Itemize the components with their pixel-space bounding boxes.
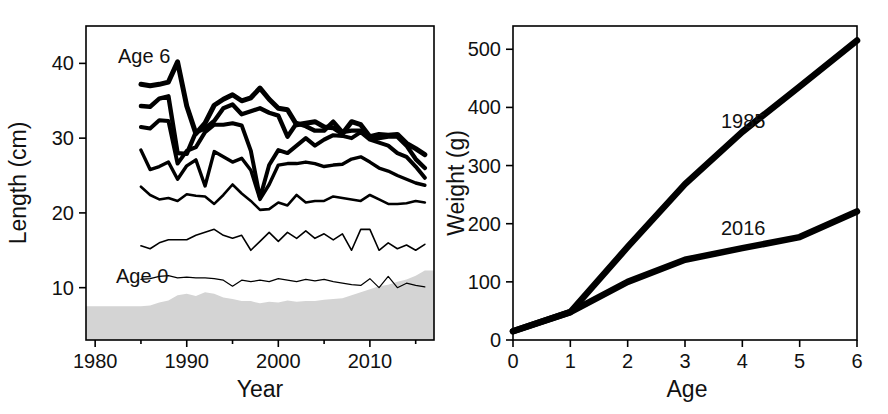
- right-xaxis-title: Age: [667, 376, 708, 402]
- right-xtick-label: 0: [507, 350, 518, 372]
- left-xtick-label: 2000: [256, 350, 301, 372]
- left-series-age-6: [141, 62, 425, 155]
- left-xtick-label: 1980: [73, 350, 118, 372]
- right-chart-svg: 01002003004005000123456 Age Weight (g) 1…: [444, 0, 888, 414]
- right-xtick-label: 5: [794, 350, 805, 372]
- left-yaxis-title: Length (cm): [5, 122, 31, 245]
- left-ytick-label: 40: [52, 52, 74, 74]
- right-ytick-label: 300: [468, 155, 501, 177]
- annotation-age-0: Age 0: [116, 265, 168, 287]
- right-ytick-label: 0: [490, 329, 501, 351]
- left-ytick-label: 20: [52, 202, 74, 224]
- left-series-age-2: [141, 184, 425, 209]
- annotation-1985: 1985: [721, 110, 766, 132]
- right-series-lines: [513, 41, 857, 332]
- left-ytick-label: 30: [52, 127, 74, 149]
- right-ytick-label: 200: [468, 213, 501, 235]
- right-xtick-label: 4: [737, 350, 748, 372]
- right-xtick-label: 1: [565, 350, 576, 372]
- left-xtick-label: 1990: [164, 350, 209, 372]
- left-series-age-4: [141, 120, 425, 198]
- left-chart-svg: 102030401980199020002010 Year Length (cm…: [0, 0, 444, 414]
- right-series-2016: [513, 211, 857, 331]
- right-yaxis-title: Weight (g): [444, 130, 469, 236]
- left-series-age-1: [141, 229, 425, 250]
- left-series-lines: [141, 62, 425, 288]
- right-series-1985: [513, 41, 857, 332]
- left-ytick-label: 10: [52, 277, 74, 299]
- figure-container: 102030401980199020002010 Year Length (cm…: [0, 0, 888, 414]
- right-ytick-label: 500: [468, 38, 501, 60]
- right-axis-ticks: [506, 49, 857, 347]
- right-xtick-label: 3: [679, 350, 690, 372]
- right-ytick-label: 100: [468, 271, 501, 293]
- panel-weight-at-age: 01002003004005000123456 Age Weight (g) 1…: [444, 0, 888, 414]
- right-ytick-label: 400: [468, 96, 501, 118]
- panel-length-at-age: 102030401980199020002010 Year Length (cm…: [0, 0, 444, 414]
- right-xtick-label: 2: [622, 350, 633, 372]
- right-xtick-label: 6: [851, 350, 862, 372]
- annotation-2016: 2016: [721, 217, 766, 239]
- left-xtick-label: 2010: [348, 350, 393, 372]
- left-xaxis-title: Year: [237, 376, 284, 402]
- annotation-age-6: Age 6: [118, 45, 170, 67]
